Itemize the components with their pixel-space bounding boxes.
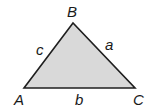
vertex-label-c: C xyxy=(133,91,144,108)
vertex-label-b: B xyxy=(67,3,77,20)
side-label-a: a xyxy=(105,36,113,53)
vertex-label-a: A xyxy=(13,91,24,108)
side-label-c: c xyxy=(36,41,44,58)
triangle-diagram: B A C c a b xyxy=(0,0,152,110)
side-label-b: b xyxy=(75,91,83,108)
